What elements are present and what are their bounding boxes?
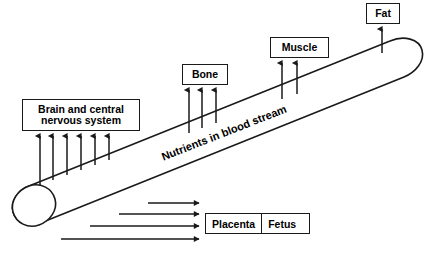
label-muscle: Muscle [282,42,318,54]
nutrient-partitioning-diagram: Nutrients in blood stream Brain and cent… [0,0,434,259]
label-brain-line2: nervous system [41,115,121,127]
label-bone: Bone [192,69,218,81]
label-placenta: Placenta [206,214,261,233]
label-fetus: Fetus [261,214,302,233]
label-box-placenta-fetus: Placenta Fetus [205,213,310,234]
label-box-muscle: Muscle [270,37,329,58]
arrows-to-placenta-fetus [61,203,199,239]
label-fat: Fat [375,8,391,20]
label-box-fat: Fat [366,3,400,24]
label-box-brain: Brain and central nervous system [22,99,140,131]
label-box-bone: Bone [182,64,228,85]
